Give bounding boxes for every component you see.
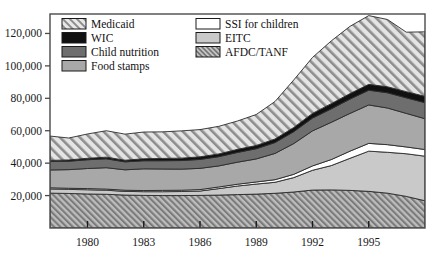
- legend-label: Child nutrition: [91, 46, 159, 58]
- x-tick-label: 1980: [76, 236, 99, 248]
- legend-swatch: [62, 33, 86, 44]
- legend-swatch: [62, 19, 86, 30]
- stacked-area-chart: 20,00040,00060,00080,000100,000120,000 1…: [0, 0, 438, 259]
- x-tick-label: 1983: [132, 236, 155, 248]
- legend-swatch: [196, 19, 220, 30]
- y-tick-label: 120,000: [5, 27, 43, 40]
- legend-swatch: [196, 47, 220, 58]
- legend-label: Medicaid: [91, 18, 135, 30]
- legend-swatch: [62, 47, 86, 58]
- x-tick-label: 1992: [301, 236, 324, 248]
- x-tick-label: 1986: [189, 236, 212, 248]
- legend-swatch: [196, 33, 220, 44]
- x-tick-label: 1989: [245, 236, 268, 248]
- y-tick-label: 20,000: [10, 190, 42, 203]
- legend-swatch: [62, 61, 86, 72]
- x-tick-label: 1995: [357, 236, 380, 248]
- chart-canvas: 20,00040,00060,00080,000100,000120,000 1…: [0, 0, 438, 259]
- y-tick-label: 60,000: [10, 125, 42, 138]
- legend-label: AFDC/TANF: [225, 46, 288, 58]
- legend-label: WIC: [91, 32, 114, 44]
- y-tick-label: 40,000: [10, 157, 42, 170]
- legend-label: EITC: [225, 32, 251, 44]
- legend-label: SSI for children: [225, 18, 299, 30]
- legend-label: Food stamps: [91, 60, 150, 73]
- y-tick-label: 100,000: [5, 60, 43, 73]
- y-tick-label: 80,000: [10, 92, 42, 105]
